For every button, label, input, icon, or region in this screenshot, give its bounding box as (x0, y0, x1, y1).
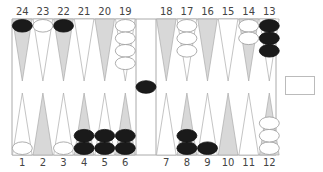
black-checker[interactable] (95, 142, 115, 155)
point-label-3: 3 (60, 157, 66, 168)
point-7[interactable] (157, 93, 177, 155)
point-label-10: 10 (222, 157, 235, 168)
black-checker[interactable] (259, 45, 279, 58)
point-20[interactable] (95, 19, 115, 81)
white-checker[interactable] (239, 32, 259, 45)
white-checker[interactable] (177, 32, 197, 45)
white-checker[interactable] (259, 117, 279, 130)
point-10[interactable] (218, 93, 238, 155)
black-checker[interactable] (177, 129, 197, 142)
white-checker[interactable] (177, 20, 197, 33)
white-checker[interactable] (115, 45, 135, 58)
point-label-13: 13 (263, 6, 276, 17)
black-checker[interactable] (198, 142, 218, 155)
black-checker[interactable] (74, 142, 94, 155)
black-checker[interactable] (115, 142, 135, 155)
black-checker-on-bar[interactable] (136, 81, 156, 94)
bar[interactable] (136, 81, 156, 94)
point-11[interactable] (239, 93, 259, 155)
point-label-16: 16 (201, 6, 214, 17)
point-label-4: 4 (81, 157, 87, 168)
white-checker[interactable] (259, 129, 279, 142)
point-label-18: 18 (160, 6, 173, 17)
white-checker[interactable] (177, 45, 197, 58)
point-label-19: 19 (119, 6, 132, 17)
white-checker[interactable] (12, 142, 32, 155)
black-checker[interactable] (95, 129, 115, 142)
point-label-1: 1 (19, 157, 25, 168)
point-2[interactable] (33, 93, 53, 155)
point-label-8: 8 (184, 157, 190, 168)
point-label-5: 5 (102, 157, 108, 168)
point-label-17: 17 (181, 6, 194, 17)
backgammon-board: 242322212019181716151413 123456789101112 (0, 0, 323, 172)
point-label-2: 2 (40, 157, 46, 168)
white-checker[interactable] (115, 57, 135, 70)
point-label-9: 9 (204, 157, 210, 168)
point-label-15: 15 (222, 6, 235, 17)
white-checker[interactable] (259, 142, 279, 155)
point-label-14: 14 (242, 6, 255, 17)
doubling-cube[interactable] (285, 76, 315, 95)
black-checker[interactable] (74, 129, 94, 142)
black-checker[interactable] (115, 129, 135, 142)
black-checker[interactable] (177, 142, 197, 155)
point-label-12: 12 (263, 157, 276, 168)
point-label-23: 23 (37, 6, 50, 17)
white-checker[interactable] (115, 20, 135, 33)
point-16[interactable] (198, 19, 218, 81)
bottom-point-labels: 123456789101112 (19, 157, 276, 168)
white-checker[interactable] (239, 20, 259, 33)
white-checker[interactable] (115, 32, 135, 45)
black-checker[interactable] (54, 20, 74, 33)
white-checker[interactable] (54, 142, 74, 155)
point-label-22: 22 (57, 6, 70, 17)
point-label-20: 20 (98, 6, 111, 17)
point-21[interactable] (74, 19, 94, 81)
point-18[interactable] (157, 19, 177, 81)
black-checker[interactable] (259, 20, 279, 33)
black-checker[interactable] (12, 20, 32, 33)
white-checker[interactable] (33, 20, 53, 33)
point-label-6: 6 (122, 157, 128, 168)
point-label-21: 21 (78, 6, 91, 17)
point-label-11: 11 (242, 157, 255, 168)
point-label-24: 24 (16, 6, 29, 17)
point-label-7: 7 (163, 157, 169, 168)
top-point-labels: 242322212019181716151413 (16, 6, 276, 17)
point-15[interactable] (218, 19, 238, 81)
black-checker[interactable] (259, 32, 279, 45)
